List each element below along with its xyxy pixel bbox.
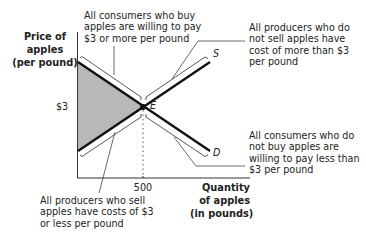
annotation-line: $3 per pound	[249, 164, 360, 175]
x-axis-label-line: Quantity	[190, 181, 250, 194]
surplus-area	[78, 62, 144, 150]
x-axis-label-line: of apples	[190, 194, 250, 207]
annotation-line: apples are willing to pay	[84, 21, 201, 32]
x-axis-label: Quantity of apples (in pounds)	[190, 181, 250, 220]
annotation-line: not buy apples are	[249, 141, 360, 152]
annotation-consumers-who-do-not-buy: All consumers who do not buy apples are …	[249, 130, 360, 175]
annotation-consumers-who-buy: All consumers who buy apples are willing…	[84, 10, 201, 44]
annotation-producers-who-do-not-sell: All producers who do not sell apples hav…	[249, 22, 350, 67]
y-axis-label: Price of apples (per pound)	[12, 30, 78, 69]
leader-bottom-left	[99, 132, 115, 193]
leader-top-right	[172, 41, 245, 79]
supply-upper-bracket	[146, 57, 208, 100]
demand-label: D	[213, 147, 220, 158]
annotation-line: All consumers who buy	[84, 10, 201, 21]
y-axis-label-line: apples	[12, 43, 78, 56]
y-axis-label-line: Price of	[12, 30, 78, 43]
annotation-line: cost of more than $3	[249, 45, 350, 56]
annotation-producers-who-sell: All producers who sell apples have costs…	[40, 195, 154, 229]
equilibrium-label: E	[150, 100, 156, 111]
annotation-line: All consumers who do	[249, 130, 360, 141]
annotation-line: not sell apples have	[249, 33, 350, 44]
demand-lower-bracket	[146, 114, 208, 157]
y-tick-label: $3	[56, 101, 68, 112]
annotation-line: All producers who do	[249, 22, 350, 33]
x-tick-label: 500	[128, 182, 158, 193]
annotation-line: All producers who sell	[40, 195, 154, 206]
y-axis-label-line: (per pound)	[12, 56, 78, 69]
supply-label: S	[213, 48, 219, 59]
x-axis-label-line: (in pounds)	[190, 207, 250, 220]
annotation-line: per pound	[249, 56, 350, 67]
annotation-line: $3 or more per pound	[84, 33, 201, 44]
annotation-line: willing to pay less than	[249, 153, 360, 164]
annotation-line: apples have costs of $3	[40, 206, 154, 217]
annotation-line: or less per pound	[40, 218, 154, 229]
equilibrium-point	[140, 104, 146, 110]
